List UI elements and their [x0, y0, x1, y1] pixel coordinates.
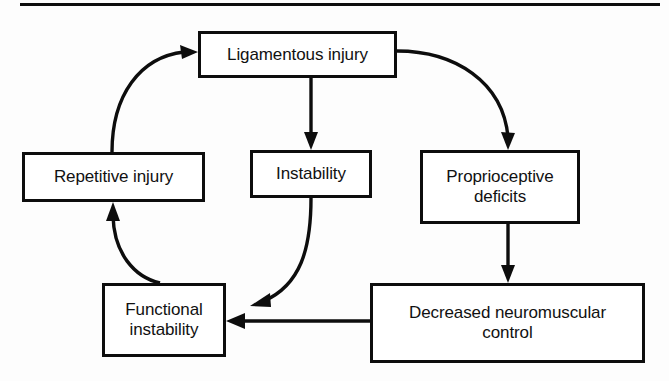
node-proprioceptive-deficits-label: Proprioceptive deficits: [446, 167, 553, 206]
node-ligamentous-injury-label: Ligamentous injury: [227, 45, 368, 65]
node-repetitive-injury-label: Repetitive injury: [54, 167, 173, 187]
node-functional-instability-label: Functional instability: [125, 300, 202, 339]
edge-proprio-to-decreased: [501, 224, 515, 283]
edge-instability-to-functional: [250, 198, 311, 307]
node-proprioceptive-deficits: Proprioceptive deficits: [420, 150, 580, 224]
edge-functional-to-repetitive: [106, 202, 160, 283]
node-functional-instability: Functional instability: [102, 283, 226, 357]
node-decreased-neuromuscular-control-label: Decreased neuromuscular control: [409, 303, 606, 342]
edge-ligamentous-to-instability: [304, 78, 318, 150]
node-decreased-neuromuscular-control: Decreased neuromuscular control: [370, 283, 645, 363]
node-repetitive-injury: Repetitive injury: [22, 152, 205, 202]
edge-ligamentous-to-proprio: [397, 51, 515, 150]
edge-decreased-to-functional: [226, 313, 370, 329]
node-ligamentous-injury: Ligamentous injury: [198, 31, 397, 78]
figure-container: Ligamentous injury Repetitive injury Ins…: [0, 0, 669, 381]
node-instability-label: Instability: [276, 164, 346, 184]
edge-repetitive-to-ligamentous: [112, 45, 198, 152]
node-instability: Instability: [250, 150, 372, 198]
top-horizontal-rule: [20, 3, 660, 6]
